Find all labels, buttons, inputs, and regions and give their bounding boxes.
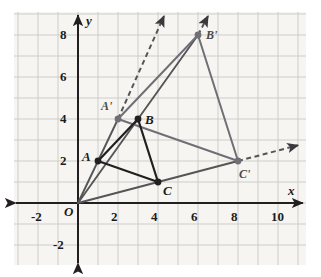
y-tick-8: 8: [60, 27, 67, 43]
origin-label: O: [64, 205, 73, 218]
x-tick-8: 8: [231, 209, 238, 225]
point-label-c-prime: C': [239, 168, 250, 180]
y-tick--2: -2: [53, 237, 64, 253]
point-label-a-prime: A': [101, 100, 112, 112]
point-label-b: B: [145, 113, 154, 126]
figure-canvas: x y O A B C A' B' C' -22468108642-2: [0, 0, 321, 277]
x-tick-10: 10: [271, 209, 284, 225]
x-tick-2: 2: [111, 209, 118, 225]
y-tick-2: 2: [60, 153, 67, 169]
y-tick-6: 6: [60, 69, 67, 85]
point-label-b-prime: B': [206, 29, 217, 41]
y-tick-4: 4: [60, 111, 67, 127]
x-tick--2: -2: [31, 209, 42, 225]
axis-label-x: x: [288, 184, 295, 197]
coordinate-plane-svg: [0, 0, 321, 277]
point-label-a: A: [82, 150, 91, 163]
x-tick-6: 6: [191, 209, 198, 225]
axis-label-y: y: [86, 14, 92, 27]
point-label-c: C: [163, 184, 172, 197]
x-tick-4: 4: [151, 209, 158, 225]
